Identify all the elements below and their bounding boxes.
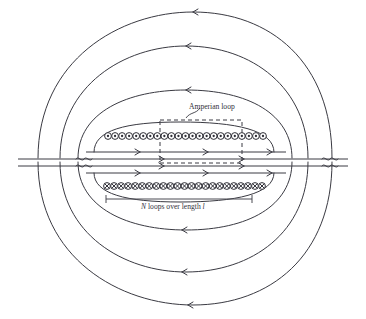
current-dot-icon [156, 135, 158, 137]
current-dot-icon [234, 135, 236, 137]
current-dot-icon [220, 135, 222, 137]
current-dot-icon [227, 135, 229, 137]
current-dot-icon [170, 135, 172, 137]
amperian-loop-rectangle [160, 120, 242, 163]
solenoid-field-diagram: Amperian loop N loops over length l [0, 0, 366, 319]
field-line-third-bottom [78, 162, 292, 230]
field-line-third [78, 87, 292, 233]
coil-row-into-page [104, 183, 266, 190]
current-dot-icon [262, 135, 264, 137]
current-dot-icon [177, 135, 179, 137]
current-dot-icon [163, 135, 165, 137]
current-dot-icon [114, 135, 116, 137]
current-dot-icon [184, 135, 186, 137]
current-dot-icon [135, 135, 137, 137]
current-dot-icon [121, 135, 123, 137]
diagram-canvas [0, 0, 366, 319]
current-dot-icon [248, 135, 250, 137]
current-dot-icon [241, 135, 243, 137]
current-dot-icon [191, 135, 193, 137]
current-dot-icon [255, 135, 257, 137]
current-dot-icon [107, 135, 109, 137]
current-dot-icon [205, 135, 207, 137]
amperian-loop-leader-line [186, 108, 200, 118]
current-dot-icon [128, 135, 130, 137]
current-dot-icon [198, 135, 200, 137]
field-line-third-top [78, 90, 292, 158]
current-dot-icon [213, 135, 215, 137]
current-dot-icon [142, 135, 144, 137]
coil-row-out-of-page [105, 133, 267, 140]
current-dot-icon [149, 135, 151, 137]
field-line-second-bottom [60, 162, 308, 272]
